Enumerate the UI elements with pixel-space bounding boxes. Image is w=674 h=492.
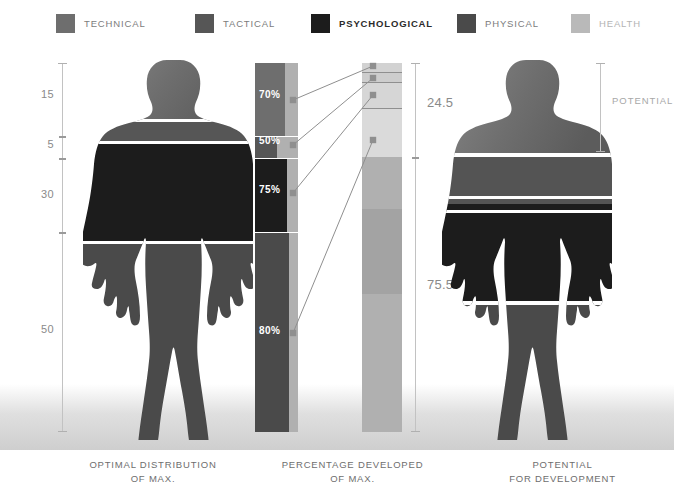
connector-line (293, 78, 373, 145)
caption-potential: POTENTIAL FOR DEVELOPMENT (455, 458, 670, 486)
scale-cap-top (596, 63, 605, 64)
bar-segment-label-psychological: 75% (259, 185, 280, 195)
legend-swatch-psychological (311, 14, 330, 33)
scale-tick (59, 158, 66, 160)
scale-value-15: 15 (20, 88, 54, 100)
scale-cap-top (411, 63, 420, 64)
figure-left-bands (83, 58, 253, 440)
bar-segment-divider (255, 158, 298, 159)
figure-potential-for-development (442, 58, 612, 440)
scale-tick (59, 136, 66, 138)
legend-label-psychological: PSYCHOLOGICAL (339, 14, 433, 33)
legend-item-psychological[interactable]: PSYCHOLOGICAL (311, 14, 433, 33)
legend-label-health: HEALTH (599, 14, 641, 33)
legend-item-tactical[interactable]: TACTICAL (195, 14, 275, 33)
scale-cap-bottom (411, 431, 420, 432)
caption-line-2: OF MAX. (245, 472, 460, 486)
bar-segment-label-tactical: 50% (259, 136, 280, 146)
bar-segment-divider (255, 136, 298, 137)
connector-line (293, 140, 373, 333)
legend-label-technical: TECHNICAL (84, 14, 146, 33)
scale-stem (415, 63, 416, 432)
legend-item-health[interactable]: HEALTH (571, 14, 641, 33)
scale-cap-top (58, 63, 67, 64)
bar-segment-label-physical: 80% (259, 326, 280, 336)
bar-segment-health (362, 109, 402, 157)
bar-segment-divider (362, 108, 402, 109)
bar-segment-psychological (255, 158, 287, 232)
legend-item-physical[interactable]: PHYSICAL (457, 14, 539, 33)
figure-right-bands (442, 58, 612, 440)
infographic-canvas: TECHNICAL TACTICAL PSYCHOLOGICAL PHYSICA… (0, 0, 674, 492)
scale-cap-bottom (58, 431, 67, 432)
bar-segment-physical-dev-upper (362, 157, 402, 209)
legend-swatch-health (571, 14, 590, 33)
bar-segment-tactical-gap (362, 73, 402, 82)
scale-stem (62, 63, 63, 432)
caption-line-2: OF MAX. (48, 472, 258, 486)
bar-segment-technical-gap (362, 63, 402, 72)
bar-segment-label-technical: 70% (259, 90, 280, 100)
connector-line (293, 95, 373, 193)
caption-percentage: PERCENTAGE DEVELOPED OF MAX. (245, 458, 460, 486)
bar-segment-psychological-gap (362, 83, 402, 108)
caption-optimal: OPTIMAL DISTRIBUTION OF MAX. (48, 458, 258, 486)
caption-line-1: OPTIMAL DISTRIBUTION (48, 458, 258, 472)
bar-segment-divider (362, 82, 402, 83)
scale-cap-bottom (596, 151, 605, 152)
scale-tick (59, 232, 66, 234)
caption-line-1: POTENTIAL (455, 458, 670, 472)
potential-for-development-bar[interactable] (362, 63, 402, 432)
scale-value-30: 30 (20, 188, 54, 200)
bar-segment-divider (362, 72, 402, 73)
scale-value-5: 5 (20, 138, 54, 150)
legend-item-technical[interactable]: TECHNICAL (56, 14, 146, 33)
bar-segment-physical-dev-lower (362, 294, 402, 432)
legend-label-tactical: TACTICAL (223, 14, 275, 33)
scale-stem (600, 63, 601, 152)
caption-line-1: PERCENTAGE DEVELOPED (245, 458, 460, 472)
scale-value-50: 50 (20, 323, 54, 335)
bar-segment-divider (255, 232, 298, 233)
scale-tick-split (412, 157, 419, 159)
bar-segment-physical-dev-mid (362, 209, 402, 294)
figure-optimal-distribution (83, 58, 253, 440)
caption-line-2: FOR DEVELOPMENT (455, 472, 670, 486)
legend-label-physical: PHYSICAL (485, 14, 539, 33)
legend-swatch-physical (457, 14, 476, 33)
legend: TECHNICAL TACTICAL PSYCHOLOGICAL PHYSICA… (0, 0, 674, 48)
legend-swatch-technical (56, 14, 75, 33)
potential-bracket-label: POTENTIAL (612, 95, 673, 106)
connector-line (293, 66, 373, 100)
legend-swatch-tactical (195, 14, 214, 33)
